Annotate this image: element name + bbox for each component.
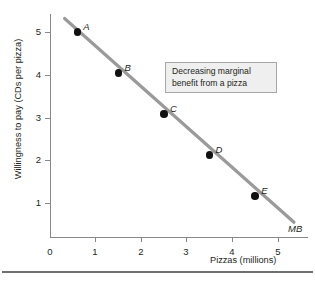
- annotation-callout: Decreasing marginal benefit from a pizza: [165, 62, 277, 93]
- data-point-label-c: C: [170, 104, 177, 114]
- annotation-line-1: Decreasing marginal: [172, 66, 270, 78]
- data-point-d: [206, 151, 214, 159]
- data-point-label-e: E: [261, 186, 267, 196]
- data-point-b: [115, 69, 123, 77]
- data-point-e: [251, 192, 259, 200]
- data-point-a: [74, 28, 82, 36]
- data-point-label-a: A: [83, 22, 89, 32]
- mb-curve: [0, 0, 315, 281]
- data-point-label-b: B: [124, 63, 130, 73]
- bottom-divider: [2, 271, 313, 273]
- mb-curve-label: MB: [288, 223, 302, 234]
- marginal-benefit-chart: 5 4 3 2 1 0 1 2 3 4 5 Willingness to pay…: [0, 0, 315, 281]
- annotation-line-2: benefit from a pizza: [172, 78, 270, 90]
- data-point-c: [160, 110, 168, 118]
- data-point-label-d: D: [216, 145, 223, 155]
